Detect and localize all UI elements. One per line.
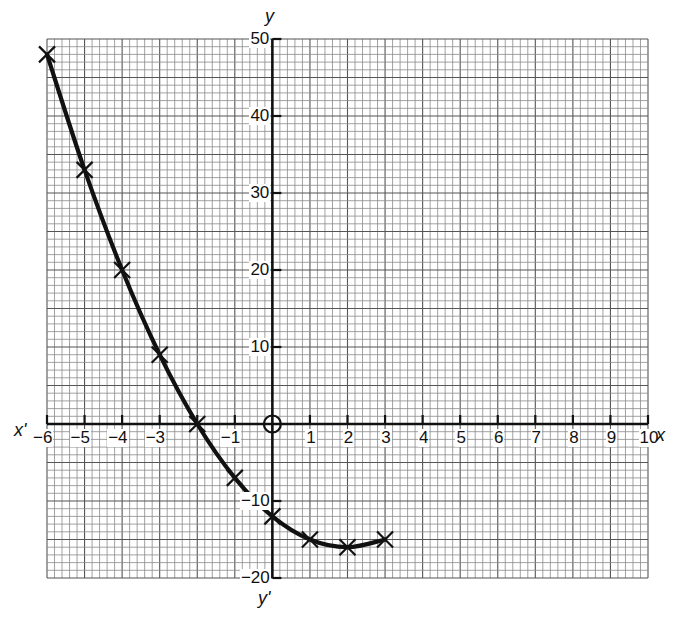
y-tick-label: 20 (249, 261, 270, 279)
y-tick-label: −20 (240, 569, 271, 587)
x-tick-label: 6 (493, 429, 504, 447)
x-tick-label: −6 (32, 429, 53, 447)
x-tick-label: −3 (145, 429, 166, 447)
x-tick-label: 1 (305, 429, 316, 447)
x-tick-label: −1 (220, 429, 241, 447)
graph-paper-chart (0, 0, 678, 621)
y-tick-label: −10 (240, 492, 271, 510)
x-tick-label: 3 (380, 429, 391, 447)
x-tick-label: 9 (606, 429, 617, 447)
x-tick-label: −5 (70, 429, 91, 447)
x-tick-label: 8 (568, 429, 579, 447)
x-axis-neg-label: x' (14, 420, 26, 441)
x-tick-label: −4 (107, 429, 128, 447)
x-tick-label: 5 (455, 429, 466, 447)
y-axis-label: y (265, 6, 274, 27)
y-tick-label: 50 (249, 30, 270, 48)
y-axis-neg-label: y' (258, 588, 270, 609)
x-tick-label: 4 (418, 429, 429, 447)
y-tick-label: 30 (249, 184, 270, 202)
x-tick-label: 2 (343, 429, 354, 447)
x-tick-label: 7 (531, 429, 542, 447)
y-tick-label: 10 (249, 338, 270, 356)
y-tick-label: 40 (249, 107, 270, 125)
x-axis-label: x (656, 425, 665, 446)
